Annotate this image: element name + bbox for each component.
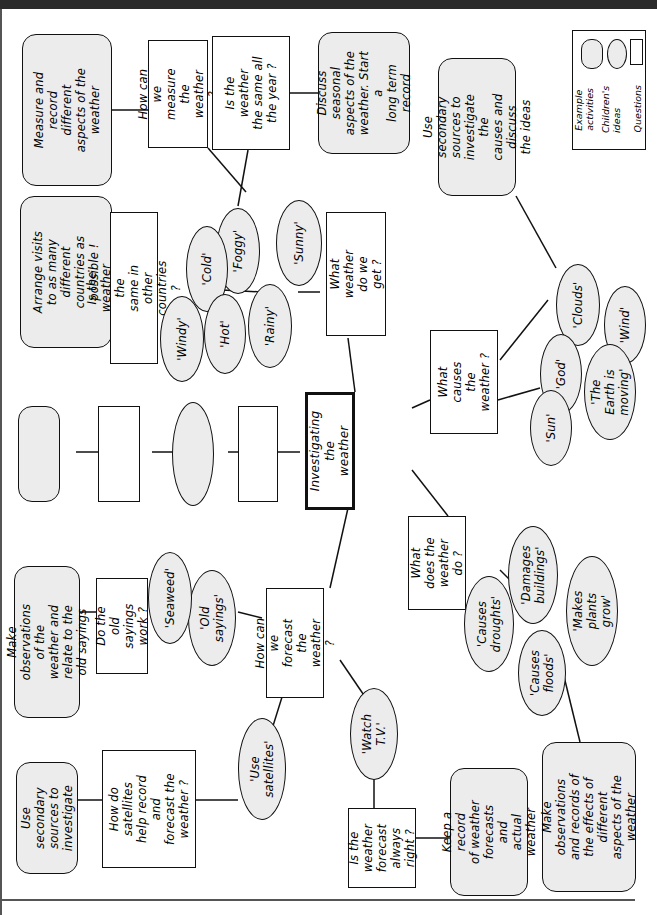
question-what-does-weather-do[interactable]: What does the weather do ?	[408, 516, 466, 610]
idea-watch-tv[interactable]: 'Watch T.V.'	[350, 688, 398, 780]
edge-q-whatget-center	[348, 338, 355, 392]
question-blank-1[interactable]	[98, 406, 140, 502]
idea-seaweed[interactable]: 'Seaweed'	[148, 552, 192, 644]
activity-secondary-sources-investigate[interactable]: Use secondary sources to investigate	[16, 762, 78, 874]
idea-use-satellites[interactable]: 'Use satellites'	[238, 718, 286, 820]
question-same-other-countries[interactable]: Is the weather the same in other countri…	[110, 212, 158, 364]
legend-label-questions: Questions	[615, 79, 657, 139]
edge-center-q-whatcauses	[412, 400, 430, 408]
edge-center-q-forecast	[330, 508, 348, 588]
page-top-border	[0, 0, 657, 9]
question-how-measure[interactable]: How can we measure the weather ?	[148, 40, 208, 148]
idea-rainy[interactable]: 'Rainy'	[248, 284, 292, 368]
page-left-border	[0, 9, 2, 899]
legend-shape-example-activities	[581, 39, 603, 69]
question-blank-2[interactable]	[238, 406, 278, 502]
question-forecast-always-right[interactable]: Is the weather forecast always right ?	[348, 808, 416, 888]
question-what-causes-weather[interactable]: What causes the weather ?	[430, 330, 498, 434]
activity-use-secondary-sources[interactable]: Use secondary sources to investigate the…	[438, 58, 516, 196]
idea-blank[interactable]	[172, 402, 214, 506]
idea-old-sayings[interactable]: 'Old sayings'	[188, 570, 236, 666]
activity-keep-record-forecasts[interactable]: Keep a record of weather forecasts and a…	[450, 768, 528, 896]
legend-shape-questions	[630, 39, 643, 65]
activity-measure-record[interactable]: Measure and record different aspects of …	[22, 34, 112, 186]
idea-causes-droughts[interactable]: 'Causes droughts'	[464, 576, 514, 672]
idea-causes-floods[interactable]: 'Causes floods'	[518, 630, 566, 716]
page-bottom-border	[0, 899, 635, 901]
idea-makes-plants-grow[interactable]: 'Makes plants grow'	[566, 556, 618, 666]
idea-damages-buildings[interactable]: 'Damages buildings'	[508, 526, 558, 624]
page-right-border	[0, 901, 2, 915]
legend-shape-childrens-ideas	[607, 39, 627, 69]
idea-earth-is-moving[interactable]: 'The Earth is moving'	[584, 344, 636, 440]
edge-center-q-whatdoes	[412, 470, 448, 516]
legend: Example activities Children's ideas Ques…	[572, 30, 646, 150]
idea-hot[interactable]: 'Hot'	[204, 294, 246, 374]
question-how-do-satellites-help[interactable]: How do satellites help record and foreca…	[102, 750, 196, 868]
activity-discuss-seasonal[interactable]: Discuss seasonal aspects of the weather.…	[318, 32, 410, 154]
activity-observations-old-sayings[interactable]: Make observations of the weather and rel…	[14, 566, 80, 718]
diagram-canvas: Example activities Children's ideas Ques…	[0, 0, 657, 915]
edge-q-whatcauses-ideas-mid	[498, 388, 540, 400]
idea-sun[interactable]: 'Sun'	[530, 390, 572, 466]
edge-a-secondary-ideas	[516, 196, 556, 268]
edge-q-sameall-ideas	[238, 150, 248, 206]
activity-observations-effects[interactable]: Make observations and records of the eff…	[542, 742, 636, 892]
question-do-old-sayings-work[interactable]: Do the old sayings work ?	[96, 578, 148, 674]
central-node[interactable]: Investigating the weather	[305, 392, 355, 510]
activity-blank[interactable]	[18, 406, 60, 502]
idea-sunny[interactable]: 'Sunny'	[276, 200, 322, 286]
question-what-weather-do-we-get[interactable]: What weather do we get ?	[326, 212, 386, 336]
edge-q-measure-ideas	[208, 148, 246, 192]
idea-windy[interactable]: 'Windy'	[160, 296, 204, 382]
edge-q-whatcauses-ideas-top	[500, 300, 548, 360]
question-how-forecast[interactable]: How can we forecast the weather ?	[266, 588, 324, 698]
question-same-all-year[interactable]: Is the weather the same all the year ?	[212, 36, 290, 150]
